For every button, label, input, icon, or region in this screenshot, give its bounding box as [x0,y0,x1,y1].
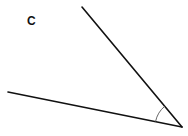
angle-diagram: C [0,0,188,136]
angle-label: C [27,15,36,27]
angle-arc [156,106,165,121]
upper-ray [82,7,182,127]
